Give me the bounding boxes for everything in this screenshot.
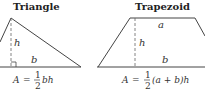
svg-text:2: 2 xyxy=(35,81,41,91)
triangle-title: Triangle xyxy=(13,1,60,12)
triangle-base-label: b xyxy=(31,54,37,65)
trapezoid-figure: Trapezoid h a b A = 1 2 (a + b)h xyxy=(97,1,205,91)
triangle-left-edge xyxy=(0,18,11,42)
trapezoid-height-label: h xyxy=(139,37,145,48)
svg-text:A: A xyxy=(121,75,129,85)
triangle-formula: A = 1 2 bh xyxy=(12,70,54,91)
triangle-right-edge xyxy=(11,18,81,67)
trapezoid-right-edge xyxy=(195,18,205,36)
svg-text:1: 1 xyxy=(145,70,151,80)
svg-text:=: = xyxy=(23,75,31,85)
svg-text:A: A xyxy=(12,75,20,85)
svg-text:1: 1 xyxy=(35,70,41,80)
trapezoid-title: Trapezoid xyxy=(135,1,190,12)
svg-text:(a + b)h: (a + b)h xyxy=(152,75,189,85)
svg-text:=: = xyxy=(132,75,140,85)
svg-text:2: 2 xyxy=(145,81,151,91)
trapezoid-base-label: b xyxy=(162,54,168,65)
svg-text:bh: bh xyxy=(42,75,54,85)
area-formulas-diagram: Triangle h b A = 1 2 bh Trapezoid h a b … xyxy=(0,0,205,92)
triangle-height-label: h xyxy=(14,37,20,48)
trapezoid-left-edge xyxy=(98,18,130,67)
triangle-figure: Triangle h b A = 1 2 bh xyxy=(0,1,81,91)
trapezoid-formula: A = 1 2 (a + b)h xyxy=(121,70,189,91)
right-angle-marker xyxy=(11,62,16,67)
trapezoid-top-label: a xyxy=(158,19,164,30)
